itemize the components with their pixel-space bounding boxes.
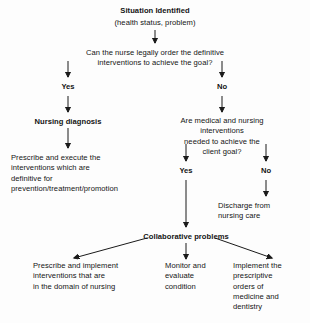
label-no-legal-order: No [217,82,227,92]
node-discharge-nursing-care: Discharge from nursing care [218,201,270,222]
node-nursing-actions: Prescribe and execute the interventions … [11,153,118,194]
label-yes-legal-order: Yes [61,82,74,92]
label-no-interventions: No [261,166,271,176]
label-yes-interventions: Yes [179,166,192,176]
node-outcome-monitor-evaluate: Monitor and evaluate condition [165,261,206,292]
question-legal-order: Can the nurse legally order the definiti… [78,48,233,69]
question-medical-nursing-interventions: Are medical and nursing interventions ne… [178,116,266,157]
flowchart-canvas: Situation Identified (health status, pro… [0,0,310,323]
node-outcome-prescriptive-orders: Implement the prescriptive orders of med… [233,261,282,312]
node-collaborative-problems: Collaborative problems [143,232,229,242]
arrow-collaborative-to-outcome-left [74,238,147,258]
subtitle-health-status: (health status, problem) [115,18,196,28]
node-outcome-nursing-domain: Prescribe and implement interventions th… [33,261,118,292]
title-situation-identified: Situation Identified [120,6,189,16]
node-nursing-diagnosis: Nursing diagnosis [34,117,101,127]
